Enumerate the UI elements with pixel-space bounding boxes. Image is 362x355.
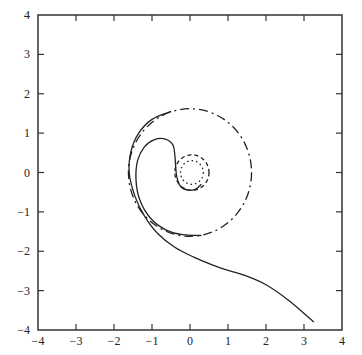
plot-frame — [38, 15, 342, 330]
series-outer-trajectory — [129, 111, 314, 322]
x-tick-label: −1 — [146, 334, 159, 348]
y-tick-label: −2 — [17, 244, 30, 258]
series-inner-trajectory — [136, 139, 201, 236]
y-tick-label: −3 — [17, 284, 30, 298]
x-tick-label: 1 — [225, 334, 231, 348]
x-tick-label: −2 — [108, 334, 121, 348]
x-tick-label: 2 — [263, 334, 269, 348]
x-tick-label: 0 — [187, 334, 193, 348]
x-tick-label: −3 — [70, 334, 83, 348]
axis-ticks — [38, 15, 342, 330]
y-axis-tick-labels: −4−3−2−101234 — [17, 8, 30, 337]
y-tick-label: 0 — [24, 166, 30, 180]
curves-layer — [128, 109, 313, 322]
y-tick-label: −1 — [17, 205, 30, 219]
y-tick-label: 1 — [24, 126, 30, 140]
y-tick-label: 4 — [24, 8, 30, 22]
phase-portrait-chart: −4−3−2−101234 −4−3−2−101234 — [0, 0, 362, 355]
y-tick-label: −4 — [17, 323, 30, 337]
y-tick-label: 2 — [24, 87, 30, 101]
series-small-cycle-inner — [181, 161, 204, 185]
series-large-limit-cycle — [128, 109, 251, 237]
x-tick-label: −4 — [32, 334, 45, 348]
x-axis-tick-labels: −4−3−2−101234 — [32, 334, 345, 348]
y-tick-label: 3 — [24, 47, 30, 61]
x-tick-label: 4 — [339, 334, 345, 348]
x-tick-label: 3 — [301, 334, 307, 348]
